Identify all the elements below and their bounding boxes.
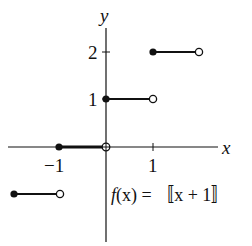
segment-y-2	[149, 48, 202, 55]
y-tick-label-2: 2	[88, 42, 98, 63]
open-dot	[56, 190, 63, 197]
open-dot	[149, 95, 156, 102]
y-axis-label: y	[98, 5, 109, 26]
function-label: f(x) = 〚x + 1〛	[111, 185, 229, 206]
segment-y-0	[55, 143, 109, 151]
y-tick-label-1: 1	[88, 89, 98, 110]
closed-dot	[10, 190, 17, 197]
closed-dot	[55, 143, 62, 150]
x-tick-label-neg1: −1	[44, 155, 64, 176]
open-dot	[195, 48, 202, 55]
closed-dot	[149, 48, 156, 55]
x-tick-label-1: 1	[148, 155, 158, 176]
closed-dot	[102, 95, 109, 102]
segment-y-neg1	[10, 190, 63, 197]
x-axis-label: x	[221, 137, 231, 158]
segment-y-1	[102, 95, 156, 102]
function-expression: (x) = 〚x + 1〛	[116, 185, 229, 206]
step-function-graph: x y −1 1 2 1 f(x) = 〚x + 1〛	[0, 0, 252, 246]
